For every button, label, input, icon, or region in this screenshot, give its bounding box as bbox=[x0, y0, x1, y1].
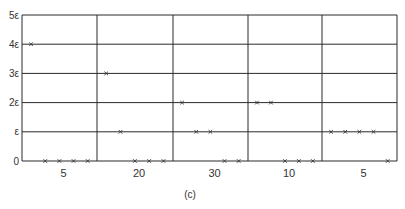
y-tick-label: 5ε bbox=[9, 10, 20, 21]
y-tick-label: ε bbox=[15, 126, 20, 137]
panel-label: 30 bbox=[208, 167, 220, 179]
figure-caption: (c) bbox=[184, 189, 196, 200]
grid-lines bbox=[22, 15, 397, 161]
chart: 0ε2ε3ε4ε5ε 52030105 (c) bbox=[0, 0, 405, 209]
panel-label: 10 bbox=[283, 167, 295, 179]
y-tick-label: 2ε bbox=[9, 97, 20, 108]
y-axis-tick-labels: 0ε2ε3ε4ε5ε bbox=[9, 10, 20, 167]
y-tick-label: 4ε bbox=[9, 39, 20, 50]
panel-label: 5 bbox=[360, 167, 366, 179]
y-tick-label: 0 bbox=[13, 156, 19, 167]
panel-label: 20 bbox=[133, 167, 145, 179]
y-tick-label: 3ε bbox=[9, 68, 20, 79]
panel-labels: 52030105 bbox=[60, 167, 366, 179]
panel-label: 5 bbox=[60, 167, 66, 179]
